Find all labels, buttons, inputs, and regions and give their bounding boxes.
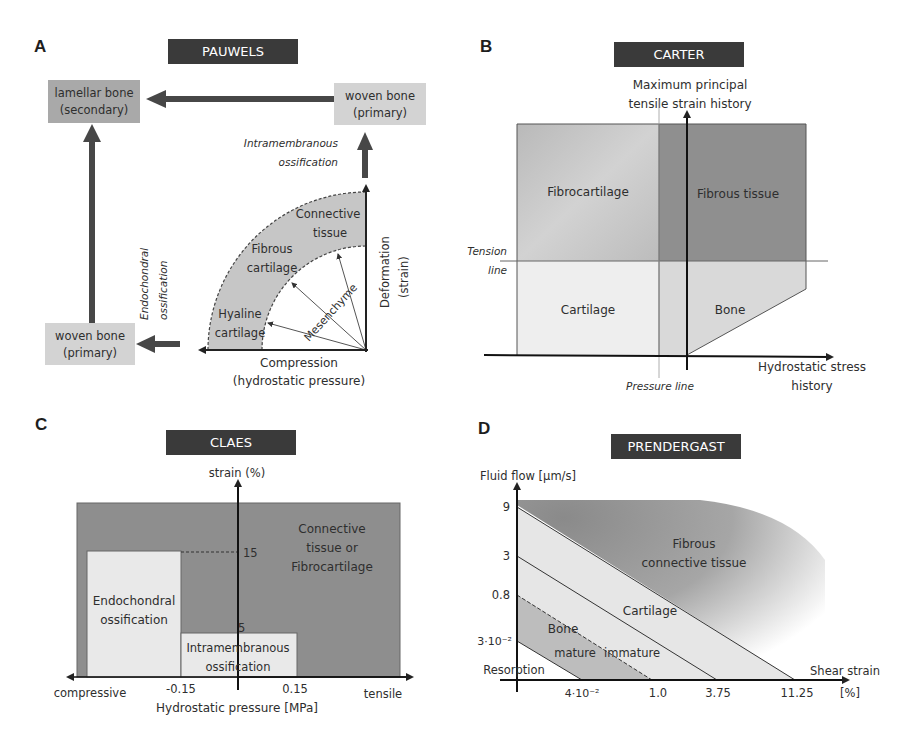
intramembranous-region-sublabel: ossification xyxy=(206,660,271,674)
carter-x-axis-label: Hydrostatic stress xyxy=(758,360,866,374)
tension-line-label: Tension xyxy=(467,245,507,257)
lamellar-bone-sublabel: (secondary) xyxy=(60,103,129,117)
connective-sublabel-2: Fibrocartilage xyxy=(291,560,373,574)
panel-letter-b: B xyxy=(480,37,492,56)
carter-x-axis xyxy=(484,355,832,357)
region-pressure-band xyxy=(659,261,687,355)
x-tick-1-0: 1.0 xyxy=(649,686,667,700)
hyaline-cartilage-label: Hyaline xyxy=(218,307,261,321)
compression-label: Compression xyxy=(260,356,338,370)
compression-sublabel: (hydrostatic pressure) xyxy=(233,374,365,388)
y-tick-3: 3 xyxy=(503,549,510,563)
x-tick-4e-2: 4·10⁻² xyxy=(565,687,600,700)
tick-5: 5 xyxy=(238,621,245,635)
x-tick-11-25: 11.25 xyxy=(781,686,814,700)
tick-neg-015: -0.15 xyxy=(166,682,196,696)
mesenchyme-label: Mesenchyme xyxy=(302,281,360,344)
connective-tissue-sublabel: tissue xyxy=(313,226,347,240)
title-pauwels: PAUWELS xyxy=(202,44,264,59)
cartilage-label: Cartilage xyxy=(561,303,615,317)
endochondral-rotated: Endochondral ossification xyxy=(138,248,169,320)
intramembranous-sublabel: ossification xyxy=(279,156,338,168)
woven-bone-bottom-label: woven bone xyxy=(55,329,125,343)
cartilage-label-d: Cartilage xyxy=(623,604,677,618)
deformation-sublabel: (strain) xyxy=(397,256,411,298)
hyaline-cartilage-sublabel: cartilage xyxy=(215,326,265,340)
fibrocartilage-label: Fibrocartilage xyxy=(547,185,629,199)
tension-line-sublabel: line xyxy=(488,264,507,276)
claes-y-axis-label: strain (%) xyxy=(209,466,265,480)
title-carter: CARTER xyxy=(653,47,704,62)
pressure-line-label: Pressure line xyxy=(626,380,694,392)
carter-x-axis-sublabel: history xyxy=(791,379,832,393)
mature-label: mature xyxy=(554,646,596,660)
fibrous-label: Fibrous xyxy=(673,537,716,551)
bone-label-d: Bone xyxy=(548,622,579,636)
woven-bone-top-label: woven bone xyxy=(345,89,415,103)
y-tick-3e-2: 3·10⁻² xyxy=(477,635,512,648)
title-prendergast: PRENDERGAST xyxy=(627,439,724,454)
panel-letter-d: D xyxy=(478,419,490,438)
tick-pos-015: 0.15 xyxy=(282,682,308,696)
panel-letter-a: A xyxy=(34,37,46,56)
connective-sublabel-1: tissue or xyxy=(306,541,358,555)
panel-a: A PAUWELS lamellar bone (secondary) wove… xyxy=(34,37,426,388)
panel-letter-c: C xyxy=(35,415,47,434)
panel-d: D PRENDERGAST Fluid flow [µm/s] 9 3 0.8 … xyxy=(477,419,880,700)
intramembranous-label: Intramembranous xyxy=(244,137,339,149)
compressive-label: compressive xyxy=(54,686,126,700)
deformation-rotated: Deformation (strain) xyxy=(378,236,411,308)
fibrous-cartilage-label: Fibrous xyxy=(251,242,292,256)
endochondral-label: Endochondral xyxy=(138,248,150,320)
claes-x-axis-label: Hydrostatic pressure [MPa] xyxy=(156,701,318,715)
connective-label: Connective xyxy=(298,522,365,536)
endochondral-sublabel: ossification xyxy=(157,261,169,320)
intramembranous-region-label: Intramembranous xyxy=(186,641,289,655)
panel-b: B CARTER Maximum principal tensile strai… xyxy=(467,37,866,393)
carter-y-axis-sublabel: tensile strain history xyxy=(628,97,751,111)
fibrous-sublabel: connective tissue xyxy=(642,556,747,570)
tensile-label: tensile xyxy=(364,687,402,701)
y-tick-0-8: 0.8 xyxy=(492,588,510,602)
fibrous-cartilage-sublabel: cartilage xyxy=(247,261,297,275)
bone-label: Bone xyxy=(715,303,746,317)
region-bone xyxy=(687,261,806,355)
resorption-label: Resorption xyxy=(483,663,545,677)
carter-y-axis-label: Maximum principal xyxy=(633,78,748,92)
shear-strain-label: Shear strain xyxy=(810,664,880,678)
y-tick-9: 9 xyxy=(503,500,510,514)
fluid-flow-label: Fluid flow [µm/s] xyxy=(480,469,576,483)
fibrous-tissue-label: Fibrous tissue xyxy=(697,187,779,201)
endochondral-region-sublabel: ossification xyxy=(100,613,168,627)
title-claes: CLAES xyxy=(210,435,252,450)
lamellar-bone-label: lamellar bone xyxy=(54,86,133,100)
endochondral-region-label: Endochondral xyxy=(93,594,176,608)
woven-bone-bottom-sublabel: (primary) xyxy=(63,346,117,360)
panel-c: C CLAES strain (%) 15 5 Connective tissu… xyxy=(35,415,412,715)
x-tick-3-75: 3.75 xyxy=(705,686,731,700)
x-unit: [%] xyxy=(840,686,860,700)
deformation-label: Deformation xyxy=(378,236,392,308)
woven-bone-top-sublabel: (primary) xyxy=(353,106,407,120)
tick-15: 15 xyxy=(243,546,258,560)
connective-tissue-label: Connective xyxy=(296,207,361,221)
immature-label: immature xyxy=(604,646,660,660)
